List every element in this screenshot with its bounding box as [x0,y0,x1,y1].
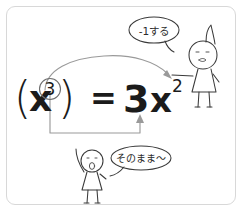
speech-bubble-top: -1する [129,17,179,52]
character-with-raised-arm [76,149,106,203]
equation-left-close-paren: ) [58,72,75,123]
equation-left-exponent: 3 [45,79,56,99]
equation-group: ( x ) 3 = 3 x 2 [14,72,183,123]
diagram-artwork: ( x ) 3 = 3 x 2 -1する [0,0,245,214]
equation-right-coefficient: 3 [123,77,149,121]
speech-bubble-bottom: そのまま〜 [110,146,171,176]
equation-right-exponent: 2 [172,76,183,96]
equation-right-base: x [150,80,172,120]
diagram-canvas: ( x ) 3 = 3 x 2 -1する [0,0,245,214]
equation-equals-sign: = [90,79,117,117]
speech-bubble-bottom-text: そのまま〜 [116,153,166,164]
speech-bubble-top-text: -1する [139,25,169,37]
